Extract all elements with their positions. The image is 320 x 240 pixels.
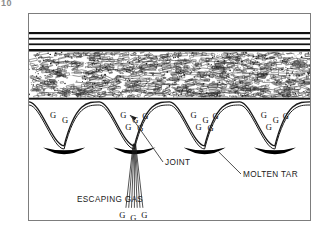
aggregate-speck (201, 92, 202, 93)
trapped-gas-symbol: G (196, 122, 202, 132)
aggregate-speck (105, 92, 106, 93)
aggregate-speck (82, 63, 83, 64)
aggregate-speck (240, 83, 241, 84)
aggregate-speck (279, 93, 281, 95)
aggregate-speck (67, 67, 68, 68)
aggregate-speck (248, 78, 249, 79)
aggregate-speck (214, 74, 215, 75)
aggregate-speck (190, 72, 191, 73)
aggregate-speck (41, 58, 42, 59)
trapped-gas-symbol: G (213, 111, 219, 121)
trapped-gas-symbol: G (266, 122, 272, 132)
aggregate-speck (94, 95, 95, 96)
aggregate-speck (186, 85, 187, 86)
aggregate-speck (99, 58, 100, 59)
aggregate-speck (112, 68, 113, 69)
aggregate-speck (287, 86, 288, 87)
aggregate-speck (175, 57, 176, 58)
aggregate-speck (303, 91, 304, 92)
aggregate-speck (146, 63, 148, 65)
aggregate-speck (40, 82, 42, 84)
aggregate-speck (187, 81, 188, 82)
aggregate-speck (186, 73, 187, 74)
aggregate-speck (252, 72, 254, 74)
aggregate-speck (55, 53, 57, 55)
aggregate-speck (76, 80, 77, 81)
aggregate-speck (193, 76, 195, 78)
aggregate-speck (85, 63, 86, 64)
aggregate-speck (295, 93, 297, 95)
aggregate-speck (163, 78, 164, 79)
aggregate-speck (59, 55, 60, 56)
joint-label: JOINT (165, 158, 190, 167)
aggregate-speck (146, 83, 147, 84)
aggregate-speck (104, 74, 106, 76)
aggregate-speck (154, 81, 155, 82)
aggregate-speck (219, 82, 220, 83)
aggregate-speck (236, 72, 237, 73)
aggregate-speck (105, 67, 107, 69)
aggregate-speck (224, 58, 225, 59)
escaping-gas-label: ESCAPING GAS (77, 195, 143, 204)
aggregate-speck (47, 94, 48, 95)
aggregate-texture-layer (29, 49, 310, 100)
trapped-gas-symbol: G (261, 110, 267, 120)
aggregate-speck (128, 78, 129, 79)
aggregate-speck (174, 82, 176, 84)
aggregate-speck (155, 56, 156, 57)
aggregate-speck (36, 68, 37, 69)
aggregate-speck (185, 63, 186, 64)
aggregate-speck (301, 87, 302, 88)
aggregate-speck (271, 60, 272, 61)
aggregate-speck (277, 90, 278, 91)
aggregate-speck (289, 58, 290, 59)
aggregate-speck (199, 93, 201, 95)
layer-membrane-ply-4 (29, 49, 310, 52)
molten-tar-label: MOLTEN TAR (243, 170, 298, 179)
aggregate-speck (49, 74, 50, 75)
aggregate-speck (213, 73, 214, 74)
aggregate-speck (119, 95, 120, 96)
aggregate-speck (144, 90, 145, 91)
trapped-gas-symbol: G (283, 111, 289, 121)
aggregate-speck (130, 73, 131, 74)
aggregate-speck (235, 87, 236, 88)
aggregate-speck (303, 81, 305, 83)
aggregate-speck (298, 54, 299, 55)
aggregate-speck (49, 94, 50, 95)
aggregate-speck (290, 57, 291, 58)
aggregate-speck (132, 68, 134, 70)
aggregate-speck (93, 59, 94, 60)
aggregate-speck (59, 93, 60, 94)
aggregate-speck (63, 62, 64, 63)
aggregate-speck (131, 89, 132, 90)
aggregate-speck (144, 58, 145, 59)
aggregate-speck (37, 53, 38, 54)
trapped-gas-symbol: G (120, 110, 126, 120)
aggregate-speck (177, 57, 179, 59)
aggregate-speck (86, 53, 87, 54)
aggregate-speck (270, 64, 271, 65)
aggregate-speck (52, 60, 53, 61)
aggregate-speck (78, 95, 79, 96)
aggregate-speck (41, 57, 42, 58)
aggregate-speck (266, 58, 268, 60)
trapped-gas-symbol: G (142, 111, 148, 121)
aggregate-speck (171, 66, 172, 67)
aggregate-speck (156, 78, 157, 79)
trapped-gas-symbol: G (125, 122, 131, 132)
aggregate-speck (233, 69, 234, 70)
aggregate-speck (257, 78, 258, 79)
aggregate-speck (227, 53, 229, 55)
aggregate-speck (263, 80, 264, 81)
aggregate-speck (255, 94, 256, 95)
aggregate-speck (209, 75, 210, 76)
aggregate-speck (128, 70, 129, 71)
aggregate-speck (241, 60, 242, 61)
aggregate-speck (237, 71, 238, 72)
trapped-gas-symbol: G (137, 123, 143, 133)
aggregate-speck (96, 63, 97, 64)
aggregate-speck (236, 53, 237, 54)
aggregate-speck (303, 73, 304, 74)
aggregate-speck (278, 53, 280, 55)
